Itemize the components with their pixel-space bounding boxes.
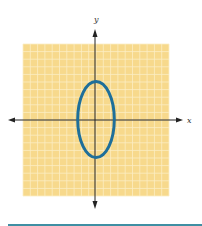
chart: x y (0, 0, 202, 226)
bottom-rule (8, 224, 202, 226)
x-axis-left-arrow-icon (8, 118, 15, 123)
y-axis-up-arrow-icon (93, 29, 98, 37)
y-axis-down-arrow-icon (93, 201, 98, 209)
x-axis-right-arrow-icon (176, 118, 183, 123)
x-axis-label: x (187, 116, 192, 125)
y-axis-label: y (93, 15, 99, 24)
